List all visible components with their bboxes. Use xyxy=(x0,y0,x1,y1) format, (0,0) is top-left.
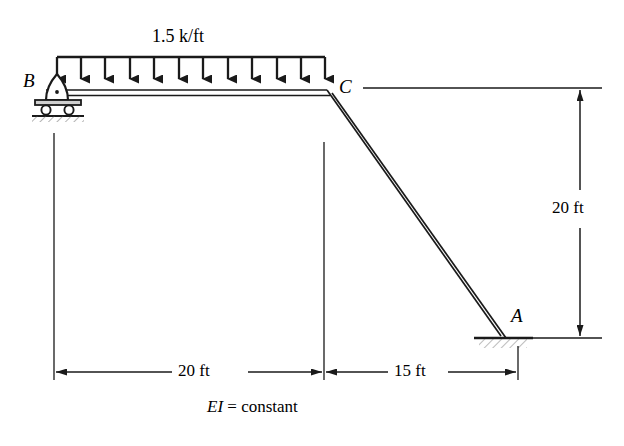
dimension-label-bc: 20 ft xyxy=(178,362,210,379)
extension-lines xyxy=(54,88,602,380)
support-b-rocker-roller xyxy=(32,74,84,122)
dimension-lines xyxy=(56,90,580,372)
member-ca-lower-edge xyxy=(332,93,506,338)
node-label-a: A xyxy=(511,306,523,325)
roller-right xyxy=(64,105,73,114)
support-plate xyxy=(35,100,81,105)
node-label-b: B xyxy=(23,71,35,90)
support-b-ground-hatch xyxy=(32,116,84,122)
dimension-label-ca-vertical: 20 ft xyxy=(552,199,584,216)
distributed-load-group xyxy=(57,57,325,79)
ei-constant-note: EI = constant xyxy=(207,398,298,415)
frame-diagram-figure: 1.5 k/ft B C A 20 ft 15 ft 20 ft EI = co… xyxy=(0,0,624,446)
frame-diagram-svg xyxy=(0,0,624,446)
rocker-body xyxy=(46,74,68,100)
dimension-label-ca-horizontal: 15 ft xyxy=(394,362,426,379)
member-ca-upper-edge xyxy=(327,90,501,336)
load-arrows xyxy=(57,57,325,79)
ei-equals-constant: = constant xyxy=(223,397,298,416)
support-a-ground-hatch xyxy=(479,339,527,348)
support-a-fixed-base xyxy=(474,338,533,348)
pin-dot xyxy=(55,90,59,94)
roller-left xyxy=(41,105,50,114)
node-label-c: C xyxy=(339,77,352,96)
ei-symbol: EI xyxy=(207,397,223,416)
distributed-load-label: 1.5 k/ft xyxy=(152,27,204,45)
frame-members xyxy=(46,90,506,338)
